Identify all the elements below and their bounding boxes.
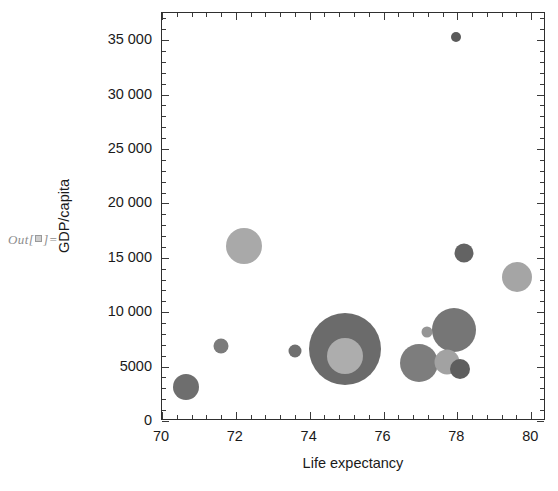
bubble-point: [450, 359, 470, 379]
bubble-series: [162, 13, 544, 419]
bubble-point: [327, 338, 363, 374]
notebook-output-cell: Out[]= 0500010 00015 00020 00025 00030 0…: [0, 0, 558, 491]
y-tick-label: 30 000: [0, 86, 152, 102]
bubble-point: [454, 244, 473, 263]
y-tick-label: 15 000: [0, 249, 152, 265]
y-tick-label: 25 000: [0, 140, 152, 156]
x-tick-label: 80: [522, 428, 538, 444]
y-tick-label: 5000: [0, 358, 152, 374]
y-tick-label: 10 000: [0, 303, 152, 319]
y-tick-label: 0: [0, 412, 152, 428]
y-axis-title: GDP/capita: [56, 179, 72, 253]
x-tick-label: 76: [374, 428, 390, 444]
x-tick-label: 72: [227, 428, 243, 444]
bubble-point: [432, 308, 476, 352]
bubble-point: [214, 338, 229, 353]
bubble-chart-graphic: 0500010 00015 00020 00025 00030 00035 00…: [0, 0, 558, 491]
x-tick-label: 74: [301, 428, 317, 444]
y-major-tick-right: [537, 421, 544, 422]
bubble-point: [502, 262, 532, 292]
bubble-point: [288, 344, 301, 357]
y-tick-label: 35 000: [0, 31, 152, 47]
x-tick-label: 78: [448, 428, 464, 444]
bubble-point: [451, 32, 461, 42]
x-tick-label: 70: [153, 428, 169, 444]
plot-frame: [161, 12, 545, 420]
y-major-tick: [162, 421, 169, 422]
bubble-point: [400, 344, 438, 382]
x-axis-title: Life expectancy: [161, 455, 545, 471]
bubble-point: [226, 228, 262, 264]
y-tick-label: 20 000: [0, 194, 152, 210]
bubble-point: [173, 374, 199, 400]
